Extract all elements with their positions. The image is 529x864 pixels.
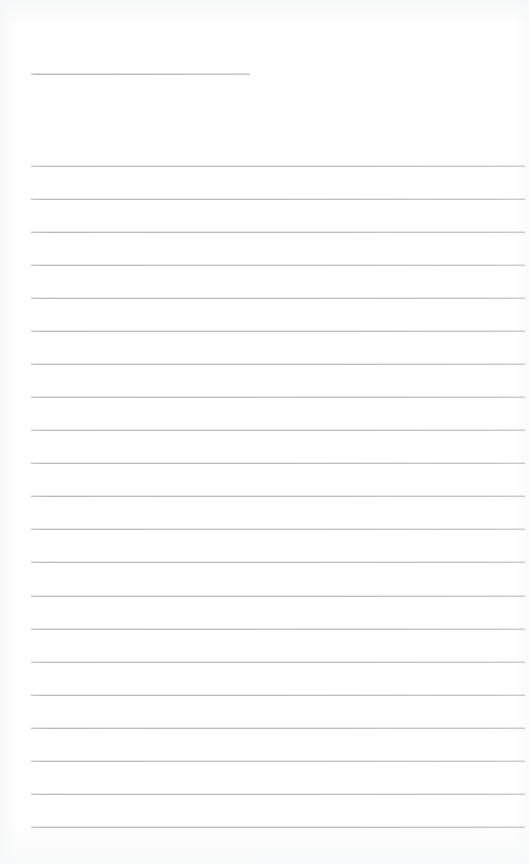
body-rule-11	[31, 496, 525, 497]
body-rule-14	[31, 596, 525, 597]
body-rule-13	[31, 562, 525, 563]
body-rule-18	[31, 728, 525, 729]
header-fill-in-rule	[31, 74, 250, 75]
body-rule-9	[31, 430, 525, 431]
body-rule-12	[31, 529, 525, 530]
body-rule-3	[31, 232, 525, 233]
body-rule-17	[31, 695, 525, 696]
scanned-page	[0, 0, 529, 864]
body-rule-21	[31, 827, 525, 828]
body-rule-19	[31, 761, 525, 762]
body-rule-2	[31, 199, 525, 200]
body-rule-16	[31, 662, 525, 663]
body-rule-4	[31, 265, 525, 266]
body-rule-20	[31, 794, 525, 795]
body-rule-5	[31, 298, 525, 299]
body-rule-8	[31, 397, 525, 398]
body-rule-15	[31, 629, 525, 630]
body-rule-10	[31, 463, 525, 464]
body-rule-6	[31, 331, 525, 332]
ruled-content-layer	[0, 0, 529, 864]
body-rule-1	[31, 166, 525, 167]
body-rule-7	[31, 364, 525, 365]
